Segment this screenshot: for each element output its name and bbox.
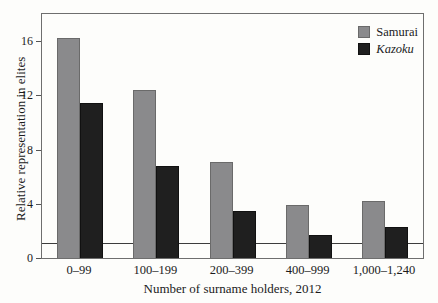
plot-area: SamuraiKazoku [41,13,424,259]
bar-chart-figure: Relative representation in elites 048121… [0,0,438,303]
bar-samurai-3 [210,162,233,258]
y-tick-label-12: 12 [0,88,33,102]
legend-label-samurai: Samurai [376,25,418,39]
x-axis-title: Number of surname holders, 2012 [41,281,424,297]
bar-samurai-2 [133,90,156,258]
y-tick-label-8: 8 [0,143,33,157]
legend-swatch-kazoku [358,43,370,55]
x-category-label-4: 400–999 [286,263,330,278]
y-tick-label-0: 0 [0,251,33,265]
bar-kazoku-4 [309,235,332,258]
bar-samurai-1 [57,38,80,258]
bar-kazoku-1 [80,103,103,258]
legend: SamuraiKazoku [358,25,418,59]
bar-kazoku-5 [385,227,408,258]
x-category-label-3: 200–399 [210,263,254,278]
legend-label-kazoku: Kazoku [376,42,414,56]
bar-kazoku-2 [156,166,179,258]
x-category-label-5: 1,000–1,240 [353,263,416,278]
y-tick-label-4: 4 [0,197,33,211]
x-category-label-1: 0–99 [67,263,92,278]
bar-kazoku-3 [233,211,256,258]
legend-item-samurai: Samurai [358,25,418,39]
y-tick-label-16: 16 [0,34,33,48]
bar-samurai-5 [362,201,385,258]
x-category-label-2: 100–199 [133,263,177,278]
legend-swatch-samurai [358,26,370,38]
legend-item-kazoku: Kazoku [358,42,418,56]
bar-samurai-4 [286,205,309,258]
